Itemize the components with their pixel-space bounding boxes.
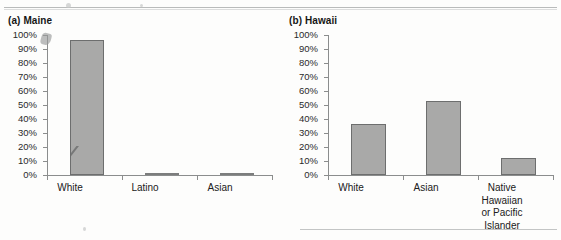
y-tick: 40% — [324, 119, 328, 120]
y-tick-label: 70% — [299, 71, 318, 82]
y-tick: 100% — [43, 35, 47, 36]
x-tick — [197, 176, 198, 180]
y-tick-label: 70% — [18, 71, 37, 82]
y-tick-label: 100% — [294, 29, 318, 40]
y-tick-label: 80% — [18, 57, 37, 68]
x-tick — [328, 176, 329, 180]
x-label-hawaii-white: White — [331, 182, 371, 195]
y-tick-label: 30% — [18, 127, 37, 138]
bar-hawaii-white[interactable] — [351, 124, 386, 175]
y-axis-line — [47, 35, 48, 176]
y-tick-label: 40% — [18, 113, 37, 124]
y-tick: 10% — [43, 161, 47, 162]
y-tick: 10% — [324, 161, 328, 162]
bar-hawaii-asian[interactable] — [426, 101, 461, 175]
y-axis-line — [328, 35, 329, 176]
y-tick-label: 0% — [304, 169, 318, 180]
x-label-maine-white: White — [50, 182, 90, 195]
y-tick: 90% — [324, 49, 328, 50]
y-tick-label: 20% — [299, 141, 318, 152]
x-label-hawaii-native: Native Hawaiian or Pacific Islander — [474, 182, 530, 232]
x-tick — [122, 176, 123, 180]
y-tick: 20% — [43, 147, 47, 148]
y-tick: 50% — [324, 105, 328, 106]
y-tick: 90% — [43, 49, 47, 50]
y-tick: 40% — [43, 119, 47, 120]
plot-area-hawaii: 100% 90% 80% 70% 60% 50% 40% 30% 20% 10%… — [328, 35, 556, 176]
x-tick — [553, 176, 554, 180]
y-tick: 80% — [324, 63, 328, 64]
y-tick: 50% — [43, 105, 47, 106]
y-tick: 80% — [43, 63, 47, 64]
x-label-hawaii-asian: Asian — [406, 182, 446, 195]
x-axis-line — [328, 175, 554, 176]
chart-panel-maine: (a) Maine 100% 90% 80% 70% 60% 50% 40% 3… — [0, 0, 280, 240]
y-tick: 60% — [43, 91, 47, 92]
y-tick-label: 90% — [299, 43, 318, 54]
x-tick — [272, 176, 273, 180]
y-tick-label: 10% — [299, 155, 318, 166]
bar-maine-latino[interactable] — [145, 173, 179, 175]
bar-maine-white[interactable] — [70, 40, 104, 175]
y-tick-label: 10% — [18, 155, 37, 166]
x-tick — [403, 176, 404, 180]
x-tick — [478, 176, 479, 180]
y-tick-label: 90% — [18, 43, 37, 54]
y-tick-label: 80% — [299, 57, 318, 68]
panel-title-hawaii: (b) Hawaii — [289, 15, 337, 26]
y-tick-label: 0% — [23, 169, 37, 180]
plot-area-maine: 100% 90% 80% 70% 60% 50% 40% 30% 20% 10%… — [47, 35, 275, 176]
y-tick-label: 50% — [299, 99, 318, 110]
x-tick — [47, 176, 48, 180]
y-tick-label: 40% — [299, 113, 318, 124]
panel-title-maine: (a) Maine — [8, 15, 52, 26]
y-tick-label: 60% — [18, 85, 37, 96]
y-tick-label: 60% — [299, 85, 318, 96]
y-tick-label: 50% — [18, 99, 37, 110]
y-tick: 100% — [324, 35, 328, 36]
chart-panel-hawaii: (b) Hawaii 100% 90% 80% 70% 60% 50% 40% … — [281, 0, 561, 240]
x-label-maine-latino: Latino — [125, 182, 165, 195]
bar-hawaii-native[interactable] — [501, 158, 536, 175]
y-tick: 70% — [43, 77, 47, 78]
bar-maine-asian[interactable] — [220, 173, 254, 175]
y-tick: 30% — [324, 133, 328, 134]
x-axis-line — [47, 175, 273, 176]
figure-page: (a) Maine 100% 90% 80% 70% 60% 50% 40% 3… — [0, 0, 561, 240]
y-tick-label: 100% — [13, 29, 37, 40]
y-tick: 30% — [43, 133, 47, 134]
y-tick-label: 20% — [18, 141, 37, 152]
y-tick: 20% — [324, 147, 328, 148]
y-tick-label: 30% — [299, 127, 318, 138]
y-tick: 60% — [324, 91, 328, 92]
x-label-maine-asian: Asian — [200, 182, 240, 195]
y-tick: 70% — [324, 77, 328, 78]
